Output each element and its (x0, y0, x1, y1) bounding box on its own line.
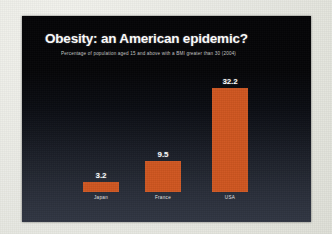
bar-label-japan: Japan (83, 195, 119, 200)
presentation-slide: Obesity: an American epidemic? Percentag… (22, 16, 311, 222)
bar-france (145, 161, 181, 192)
bar-value-france: 9.5 (145, 150, 181, 159)
bar-group-japan: 3.2 Japan (83, 171, 119, 192)
bar-label-france: France (145, 195, 181, 200)
bar-group-france: 9.5 France (145, 150, 181, 192)
bar-usa (212, 88, 248, 192)
bar-value-usa: 32.2 (212, 77, 248, 86)
bar-label-usa: USA (212, 195, 248, 200)
bar-chart-plot-area: 3.2 Japan 9.5 France 32.2 USA (22, 16, 311, 222)
bar-japan (83, 182, 119, 192)
bar-group-usa: 32.2 USA (212, 77, 248, 192)
photo-page-background: Obesity: an American epidemic? Percentag… (0, 0, 332, 234)
bar-value-japan: 3.2 (83, 171, 119, 180)
